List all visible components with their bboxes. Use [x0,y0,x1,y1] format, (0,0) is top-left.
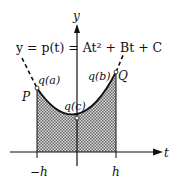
tick-h: h [112,165,120,179]
parabola-area-diagram: y y = p(t) = At² + Bt + C q(a) P q(b) Q … [0,0,178,188]
t-axis-arrow-icon [153,149,163,156]
equation-label: y = p(t) = At² + Bt + C [15,40,162,55]
y-axis-label: y [72,9,80,23]
label-qb: q(b) [88,70,111,83]
tick-minus-h: −h [30,165,48,179]
label-qc: q(c) [64,100,86,113]
y-axis-arrow-icon [74,24,80,33]
t-axis-label: t [164,146,169,160]
label-Q: Q [118,69,128,83]
label-qa: q(a) [38,74,60,87]
label-P: P [21,90,31,104]
point-c-marker [75,116,79,120]
parabola-dashed-left [22,58,37,88]
